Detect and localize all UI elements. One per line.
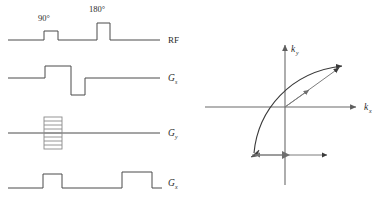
- pulse-sequence-panel: 90° 180° RF G s: [8, 4, 179, 190]
- kspace-trajectory-curve: [254, 66, 342, 153]
- readout-label: G: [168, 178, 175, 188]
- kspace-x-axis-label-group: k x: [364, 102, 372, 114]
- slice-select-waveform: [8, 66, 160, 95]
- kspace-y-axis-label-group: k y: [291, 44, 299, 56]
- phase-encode-label: G: [168, 128, 175, 138]
- phase-encode-label-subscript: y: [174, 134, 178, 140]
- slice-select-channel: G s: [8, 66, 178, 95]
- figure-root: 90° 180° RF G s: [0, 0, 387, 202]
- kspace-panel: k y k x: [205, 44, 372, 185]
- phase-encode-channel: G y: [8, 117, 178, 149]
- mri-sequence-figure: 90° 180° RF G s: [0, 0, 387, 202]
- rf-pulse-180-label: 180°: [89, 4, 105, 14]
- kspace-trajectory-start-arrow: [251, 150, 259, 157]
- kspace-readout-midpoint-arrow: [282, 151, 290, 159]
- rf-channel: 90° 180° RF: [8, 4, 179, 45]
- kspace-y-axis-label-subscript: y: [295, 50, 299, 56]
- slice-select-label-subscript: s: [175, 79, 178, 85]
- readout-label-subscript: x: [174, 184, 178, 190]
- kspace-short-diagonal-vector: [285, 90, 309, 107]
- readout-channel: G x: [8, 172, 178, 190]
- kspace-x-axis-label-subscript: x: [368, 108, 372, 114]
- rf-pulse-90-label: 90°: [38, 13, 50, 23]
- phase-encode-ladder: [44, 117, 62, 149]
- slice-select-label: G: [168, 73, 175, 83]
- rf-channel-label: RF: [168, 35, 179, 45]
- rf-waveform: [8, 23, 160, 40]
- readout-waveform: [8, 172, 162, 188]
